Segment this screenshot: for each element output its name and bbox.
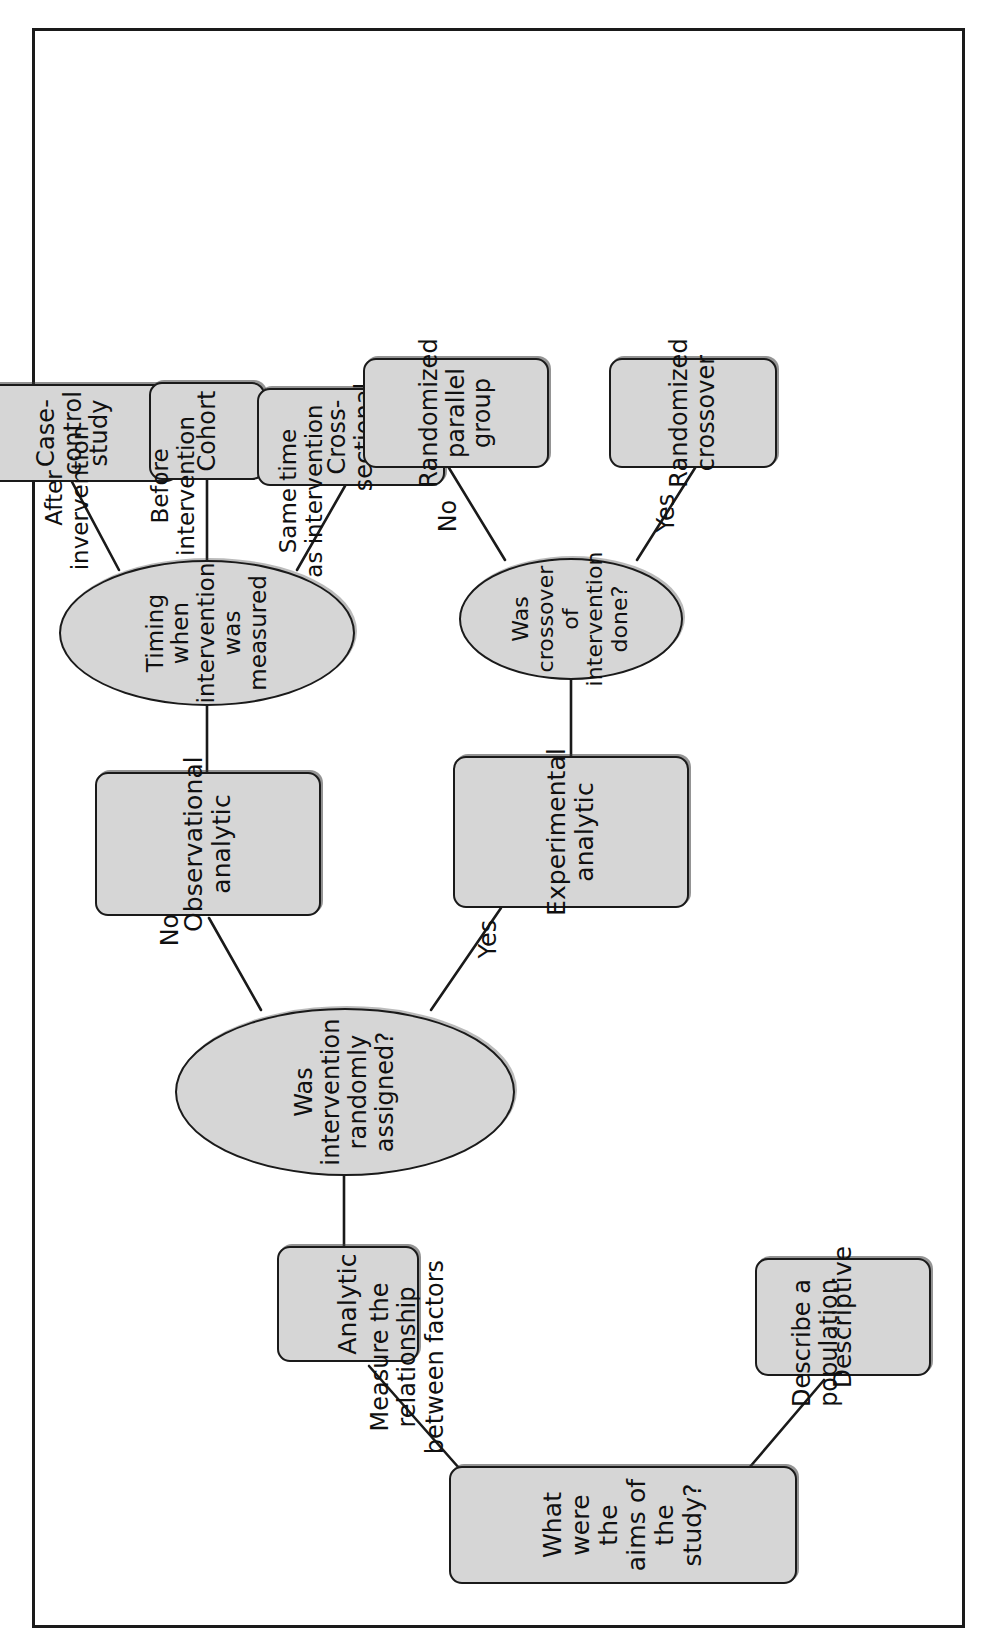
edge-label-timing-before: Before intervention bbox=[147, 400, 199, 572]
edge-label-measure-relationship: Measure the relationship between factors bbox=[367, 1232, 449, 1482]
node-experimental-analytic[interactable]: Experimental analytic bbox=[453, 756, 689, 908]
rotated-diagram-container: What were the aims of the study? Descrip… bbox=[49, 48, 949, 1608]
figure-page: What were the aims of the study? Descrip… bbox=[0, 0, 991, 1647]
flowchart-canvas: What were the aims of the study? Descrip… bbox=[49, 48, 949, 1608]
edge-label-timing-same: Same time as intervention bbox=[275, 396, 327, 586]
node-randomized-parallel-group[interactable]: Randomized parallel group bbox=[363, 358, 549, 468]
edge-label-crossover-yes: Yes bbox=[653, 480, 680, 546]
node-question-crossover[interactable]: Was crossover of intervention done? bbox=[459, 558, 683, 680]
node-root[interactable]: What were the aims of the study? bbox=[449, 1466, 797, 1584]
edge-label-timing-after: After invervention bbox=[41, 414, 93, 582]
figure-border: What were the aims of the study? Descrip… bbox=[32, 28, 965, 1628]
node-observational-analytic[interactable]: Observational analytic bbox=[95, 772, 321, 916]
node-question-random-assignment[interactable]: Was intervention randomly assigned? bbox=[175, 1008, 515, 1176]
edge-label-random-yes: Yes bbox=[475, 906, 502, 972]
node-randomized-crossover[interactable]: Randomized crossover bbox=[609, 358, 777, 468]
edge-label-describe-population: Describe a population bbox=[789, 1228, 844, 1458]
edge-label-crossover-no: No bbox=[435, 486, 462, 546]
edge-label-random-no: No bbox=[157, 900, 184, 960]
